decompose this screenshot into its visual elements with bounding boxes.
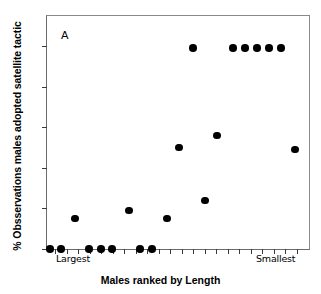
data-point — [189, 44, 197, 52]
data-point — [229, 44, 237, 52]
data-point — [241, 44, 249, 52]
data-point — [57, 245, 65, 253]
data-point — [163, 215, 171, 223]
data-point — [253, 44, 261, 52]
x-tick-7 — [124, 249, 125, 254]
panel-label: A — [61, 29, 69, 42]
x-axis-right-endpoint-label: Smallest — [256, 253, 295, 264]
x-tick-18 — [251, 249, 252, 254]
data-point — [108, 245, 116, 253]
data-point — [46, 245, 54, 253]
x-tick-16 — [228, 249, 229, 254]
data-point — [291, 146, 299, 154]
data-point — [213, 132, 221, 140]
x-tick-14 — [205, 249, 206, 254]
scatter-plot-figure: % Obsservations males adopted satellite … — [0, 0, 321, 294]
x-tick-12 — [182, 249, 183, 254]
y-tick-100 — [42, 46, 47, 47]
x-tick-10 — [159, 249, 160, 254]
data-point — [148, 245, 156, 253]
x-tick-13 — [193, 249, 194, 254]
y-tick-80 — [42, 87, 47, 88]
x-axis-left-endpoint-label: Largest — [56, 253, 90, 264]
data-point — [277, 44, 285, 52]
y-axis-title: % Obsservations males adopted satellite … — [11, 16, 23, 256]
y-tick-60 — [42, 127, 47, 128]
x-tick-15 — [216, 249, 217, 254]
data-point — [136, 245, 144, 253]
x-tick-11 — [170, 249, 171, 254]
data-point — [201, 197, 209, 205]
data-point — [175, 144, 183, 152]
data-point — [85, 245, 93, 253]
y-tick-20 — [42, 208, 47, 209]
plot-frame: A — [46, 15, 310, 250]
y-tick-40 — [42, 168, 47, 169]
data-point — [71, 215, 79, 223]
x-tick-17 — [239, 249, 240, 254]
x-axis-title: Males ranked by Length — [0, 274, 321, 286]
data-point — [265, 44, 273, 52]
x-tick-22 — [297, 249, 298, 254]
data-point — [97, 245, 105, 253]
data-point — [125, 207, 133, 215]
